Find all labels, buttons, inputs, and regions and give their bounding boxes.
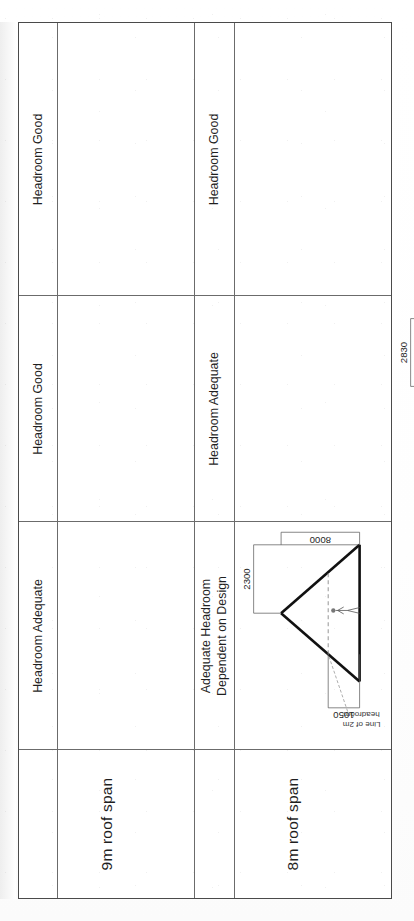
assessment-cell-9m-b: Headroom Good [19, 296, 57, 522]
row-label-row-9m: 9m roof span [19, 750, 194, 898]
assessment-line-2: Dependent on Design [215, 576, 229, 696]
svg-text:2830: 2830 [398, 342, 409, 363]
assessment-text: Headroom Good [206, 114, 222, 206]
assessment-line-1: Headroom Adequate [207, 352, 221, 466]
svg-text:2300: 2300 [241, 568, 252, 589]
assessment-line-1: Adequate Headroom [199, 579, 213, 693]
assessment-line-1: Headroom Adequate [31, 579, 45, 693]
svg-text:Line of 2m: Line of 2m [342, 720, 380, 729]
row-label-row-8m: 8m roof span [194, 750, 391, 898]
assessment-text: Headroom Adequate [30, 579, 46, 693]
assessment-line-1: Headroom Good [207, 114, 221, 206]
assessment-text: Adequate HeadroomDependent on Design [198, 576, 231, 696]
assessment-cell-9m-c: Headroom Good [19, 23, 57, 296]
assessment-cell-8m-c: Headroom Good [194, 23, 234, 296]
svg-text:headroom: headroom [343, 710, 380, 719]
assessment-line-1: Headroom Good [31, 114, 45, 206]
roof-diagram-cell-8m-b: 283022408000Line of 2mheadroom [391, 296, 414, 522]
assessment-text: Headroom Adequate [206, 352, 222, 466]
assessment-cell-8m-a: Adequate HeadroomDependent on Design [194, 522, 234, 750]
roof-diagram-cell-8m-a: 230010508000Line of 2mheadroom [234, 522, 391, 750]
assessment-cell-8m-b: Headroom Adequate [194, 296, 234, 522]
assessment-text: Headroom Good [30, 363, 46, 455]
row-label-text: 8m roof span [284, 778, 302, 871]
row-label-text: 9m roof span [98, 778, 116, 871]
headroom-table: 8m roof span230010508000Line of 2mheadro… [18, 22, 392, 899]
assessment-text: Headroom Good [30, 114, 46, 206]
rotated-table-wrapper: 8m roof span230010508000Line of 2mheadro… [0, 0, 414, 921]
svg-text:8000: 8000 [310, 535, 331, 546]
assessment-line-1: Headroom Good [31, 363, 45, 455]
assessment-cell-9m-a: Headroom Adequate [19, 522, 57, 750]
scanned-page: 8m roof span230010508000Line of 2mheadro… [0, 0, 414, 921]
